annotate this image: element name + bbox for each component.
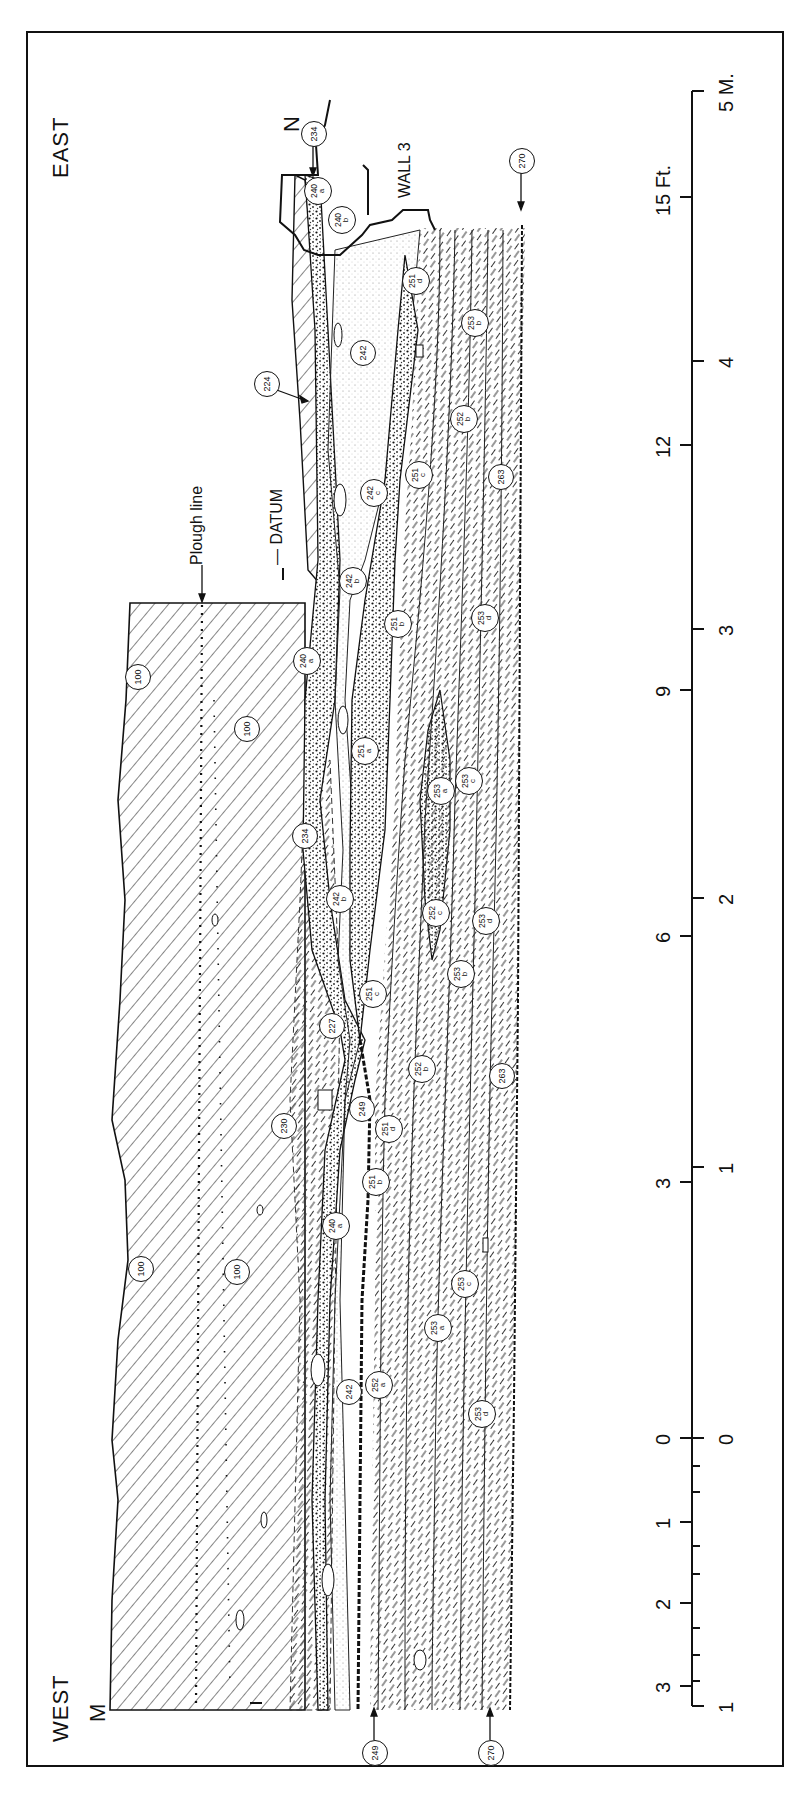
context-sub-letter: b: [353, 579, 361, 583]
context-sub-letter: c: [374, 491, 382, 495]
scale-feet-3b: 3: [652, 1682, 675, 1693]
east-label: EAST: [48, 117, 74, 178]
context-sub-letter: b: [342, 218, 350, 222]
context-label-240b: 240b: [328, 206, 356, 234]
context-label-100: 100: [128, 1256, 154, 1282]
context-label-270: 270: [478, 1740, 504, 1766]
context-label-251a: 251a: [351, 737, 379, 765]
context-sub-letter: a: [336, 1224, 344, 1228]
context-label-100: 100: [234, 716, 260, 742]
context-number: 100: [137, 1261, 145, 1276]
context-label-252a: 252a: [365, 1371, 393, 1399]
west-label: WEST: [48, 1674, 74, 1742]
context-number: 227: [328, 1018, 336, 1033]
context-label-270: 270: [509, 148, 535, 174]
datum-label: — DATUM: [268, 489, 286, 565]
context-label-251c: 251c: [405, 461, 433, 489]
context-number: 242: [359, 345, 367, 360]
context-sub-letter: c: [419, 473, 427, 477]
context-sub-letter: b: [475, 321, 483, 325]
scale-m-5: 5 M.: [715, 73, 738, 112]
context-label-224: 224: [254, 371, 280, 397]
context-number: 263: [498, 1068, 506, 1083]
layer-100-topsoil: [110, 603, 305, 1710]
context-sub-letter: b: [340, 897, 348, 901]
context-number: 263: [497, 469, 505, 484]
context-sub-letter: b: [464, 417, 472, 421]
context-label-253a: 253a: [424, 1314, 452, 1342]
context-label-252c: 252c: [422, 899, 450, 927]
section-drawing: EAST WEST M N Plough line — DATUM WALL 3…: [0, 0, 806, 1803]
context-sub-letter: c: [469, 779, 477, 783]
context-number: 100: [134, 669, 142, 684]
context-label-263: 263: [488, 464, 514, 490]
context-number: 234: [301, 828, 309, 843]
context-sub-letter: d: [486, 919, 494, 923]
context-label-242b: 242b: [339, 567, 367, 595]
context-number: 100: [243, 721, 251, 736]
context-label-242b: 242b: [326, 885, 354, 913]
context-sub-letter: a: [307, 659, 315, 663]
context-label-253a: 253a: [427, 777, 455, 805]
context-sub-letter: b: [461, 972, 469, 976]
context-sub-letter: b: [422, 1067, 430, 1071]
context-number: 100: [233, 1264, 241, 1279]
context-number: 234: [310, 126, 318, 141]
context-label-230: 230: [271, 1113, 297, 1139]
context-number: 249: [371, 1745, 379, 1760]
context-number: 249: [358, 1101, 366, 1116]
scale-bar: [680, 91, 704, 1706]
west-sub-label: M: [85, 1703, 111, 1722]
context-sub-letter: a: [438, 1326, 446, 1330]
context-sub-letter: b: [398, 622, 406, 626]
context-label-253d: 253d: [471, 604, 499, 632]
context-label-263: 263: [489, 1063, 515, 1089]
context-label-251d: 251d: [402, 267, 430, 295]
context-label-100: 100: [224, 1259, 250, 1285]
scale-feet-6: 6: [652, 932, 675, 943]
context-label-253d: 253d: [468, 1400, 496, 1428]
context-label-249: 249: [362, 1740, 388, 1766]
scale-m-3: 3: [715, 625, 738, 636]
context-label-251b: 251b: [362, 1168, 390, 1196]
scale-m-4: 4: [715, 357, 738, 368]
scale-feet-9: 9: [652, 686, 675, 697]
context-label-252b: 252b: [408, 1055, 436, 1083]
context-label-252b: 252b: [450, 405, 478, 433]
wall-3-label: WALL 3: [396, 142, 414, 198]
scale-feet-0: 0: [652, 1434, 675, 1445]
scale-feet-15: 15 Ft.: [652, 165, 675, 216]
context-label-251b: 251b: [384, 610, 412, 638]
context-label-242: 242: [350, 340, 376, 366]
context-sub-letter: d: [485, 616, 493, 620]
context-label-253c: 253c: [451, 1270, 479, 1298]
context-sub-letter: c: [373, 992, 381, 996]
context-label-249: 249: [349, 1096, 375, 1122]
context-sub-letter: a: [365, 749, 373, 753]
context-sub-letter: a: [318, 189, 326, 193]
context-label-227: 227: [319, 1013, 345, 1039]
scale-feet-3: 3: [652, 1178, 675, 1189]
scale-m-1b: 1: [715, 1702, 738, 1713]
section-svg: [0, 0, 806, 1803]
context-label-251d: 251d: [375, 1115, 403, 1143]
scale-m-2: 2: [715, 894, 738, 905]
context-label-253c: 253c: [455, 767, 483, 795]
context-number: 270: [518, 153, 526, 168]
plough-line-label: Plough line: [188, 486, 206, 565]
context-label-242c: 242c: [360, 479, 388, 507]
context-label-234: 234: [292, 823, 318, 849]
context-label-253b: 253b: [447, 960, 475, 988]
scale-feet-12: 12: [652, 436, 675, 458]
context-label-240a: 240a: [304, 177, 332, 205]
context-sub-letter: d: [416, 279, 424, 283]
context-number: 270: [487, 1745, 495, 1760]
context-sub-letter: b: [376, 1180, 384, 1184]
context-label-251c: 251c: [359, 980, 387, 1008]
context-label-242: 242: [336, 1379, 362, 1405]
context-sub-letter: c: [436, 911, 444, 915]
context-sub-letter: d: [482, 1412, 490, 1416]
context-label-240a: 240a: [322, 1212, 350, 1240]
context-label-100: 100: [125, 664, 151, 690]
context-sub-letter: a: [441, 789, 449, 793]
